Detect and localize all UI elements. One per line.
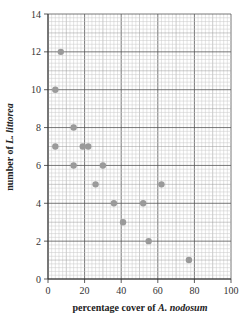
data-point [100,162,106,168]
data-point [80,143,86,149]
y-tick-label: 8 [36,122,41,133]
x-tick-label: 60 [153,285,163,296]
x-axis-label: percentage cover of A. nodosum [73,302,208,313]
y-tick-label: 4 [36,198,41,209]
data-point [120,219,126,225]
data-point [52,143,58,149]
data-point [70,162,76,168]
data-point [145,238,151,244]
x-tick-label: 40 [116,285,126,296]
y-tick-label: 6 [36,160,41,171]
x-tick-label: 100 [224,285,239,296]
data-point [92,181,98,187]
y-tick-label: 12 [31,46,41,57]
data-point [186,257,192,263]
data-point [140,200,146,206]
y-tick-label: 2 [36,236,41,247]
y-tick-label: 10 [31,84,41,95]
data-points [52,49,192,264]
x-tick-label: 0 [46,285,51,296]
y-axis-label: number of L. littorea [4,103,15,191]
x-tick-label: 80 [189,285,199,296]
y-tick-label: 0 [36,274,41,285]
data-point [70,124,76,130]
x-tick-label: 20 [80,285,90,296]
y-axis-ticks: 02468101214 [31,9,48,285]
data-point [58,49,64,55]
graph-paper-grid [48,14,231,279]
data-point [158,181,164,187]
scatter-plot: 020406080100 02468101214 percentage cove… [0,0,250,321]
data-point [52,87,58,93]
data-point [111,200,117,206]
y-tick-label: 14 [31,9,41,20]
data-point [85,143,91,149]
x-axis-ticks: 020406080100 [46,279,239,296]
